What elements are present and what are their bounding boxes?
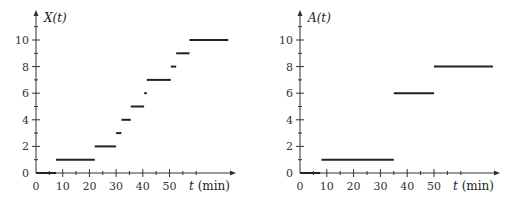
y-tick-label: 2 — [286, 140, 293, 153]
y-tick-label: 8 — [22, 61, 29, 74]
y-tick-label: 0 — [22, 167, 29, 180]
x-tick-label: 40 — [136, 180, 150, 193]
y-tick-label: 0 — [286, 167, 293, 180]
y-tick-label: 4 — [22, 114, 29, 127]
y-tick-label: 10 — [279, 34, 293, 47]
chart-x-of-t: 010203040500246810X(t)t (min) — [15, 10, 236, 193]
y-tick-label: 2 — [22, 140, 29, 153]
y-axis-label: X(t) — [43, 11, 67, 25]
x-axis-label: t (min) — [189, 179, 230, 193]
y-tick-label: 6 — [22, 87, 29, 100]
x-axis-label: t (min) — [453, 179, 494, 193]
x-tick-label: 40 — [400, 180, 414, 193]
x-axis-arrow-icon — [230, 171, 236, 176]
x-tick-label: 10 — [320, 180, 334, 193]
y-axis-arrow-icon — [34, 10, 39, 16]
x-axis-arrow-icon — [494, 171, 500, 176]
x-tick-label: 20 — [82, 180, 96, 193]
y-tick-label: 8 — [286, 61, 293, 74]
step-charts: 010203040500246810X(t)t (min) 0102030405… — [0, 0, 516, 209]
x-tick-label: 0 — [33, 180, 40, 193]
x-tick-label: 10 — [56, 180, 70, 193]
y-axis-arrow-icon — [298, 10, 303, 16]
y-axis-label: A(t) — [307, 11, 331, 25]
x-tick-label: 0 — [297, 180, 304, 193]
x-tick-label: 20 — [347, 180, 361, 193]
y-tick-label: 6 — [286, 87, 293, 100]
y-tick-label: 10 — [15, 34, 29, 47]
chart-a-of-t: 010203040500246810A(t)t (min) — [279, 10, 500, 193]
x-tick-label: 30 — [109, 180, 123, 193]
x-tick-label: 50 — [163, 180, 177, 193]
x-tick-label: 30 — [373, 180, 387, 193]
x-tick-label: 50 — [427, 180, 441, 193]
y-tick-label: 4 — [286, 114, 293, 127]
